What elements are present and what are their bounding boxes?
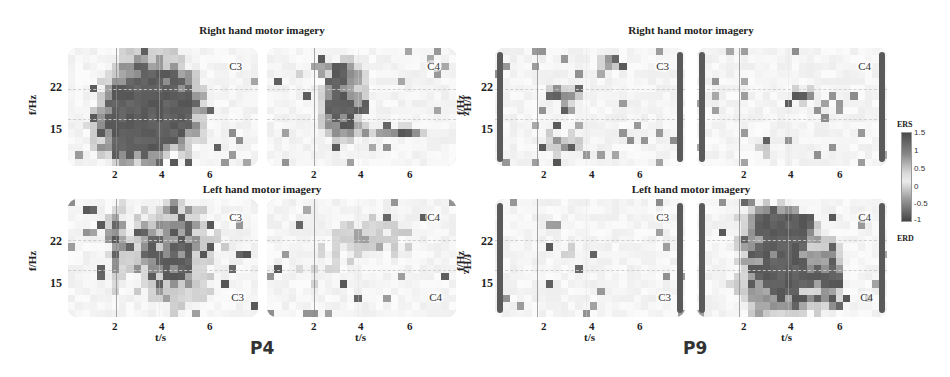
heatmap-p9-left-c3: C3C3 xyxy=(495,199,685,317)
heatmap-p4-right-c3: C3 xyxy=(68,48,258,166)
heatmap-p4-left-c4: C4C4 xyxy=(267,199,456,317)
gridline-vertical xyxy=(159,199,160,317)
p9-top-xtick-4b: 4 xyxy=(788,168,794,180)
event-onset-line xyxy=(537,199,538,317)
subject-label-p9: P9 xyxy=(683,338,707,358)
panel-edge-artifact xyxy=(879,52,885,162)
p9-bottom-xtick-6b: 6 xyxy=(837,320,843,332)
heatmap-p4-right-c4: C4 xyxy=(267,48,456,166)
gridline-horizontal xyxy=(697,270,887,271)
heatmap-p9-right-c4: C4 xyxy=(697,48,887,166)
heatmap-p9-right-c3: C3 xyxy=(495,48,685,166)
p4-bottom-xtick-6: 6 xyxy=(207,320,213,332)
p9-top-ylabel: f/Hz xyxy=(454,95,466,115)
p9-top-xtick-4: 4 xyxy=(589,168,595,180)
event-onset-line xyxy=(314,48,315,166)
panel-edge-artifact xyxy=(879,203,885,313)
p9-top-title: Right hand motor imagery xyxy=(495,24,887,36)
colorbar-erd-label: ERD xyxy=(897,234,914,243)
colorbar-tick-0: 0 xyxy=(914,182,918,191)
subject-label-p4: P4 xyxy=(250,338,274,358)
p9-top-xtick-2b: 2 xyxy=(741,168,747,180)
colorbar-tick-0.5: 0.5 xyxy=(914,164,925,173)
channel-label-bottom: C3 xyxy=(656,291,673,303)
p9-bottom-title: Left hand motor imagery xyxy=(495,183,887,195)
colorbar-ers-label: ERS xyxy=(897,120,913,129)
p4-bottom-xtick-2b: 2 xyxy=(311,320,317,332)
gridline-vertical xyxy=(159,48,160,166)
p4-top-ytick-15: 15 xyxy=(50,122,62,137)
panel-edge-artifact xyxy=(497,52,503,162)
gridline-horizontal xyxy=(495,240,685,241)
p4-top-xtick-4b: 4 xyxy=(358,168,364,180)
p4-bottom-xtick-2: 2 xyxy=(112,320,118,332)
channel-label-bottom: C4 xyxy=(427,291,444,303)
gridline-horizontal xyxy=(495,270,685,271)
p9-top-xtick-2: 2 xyxy=(541,168,547,180)
p4-top-ytick-22: 22 xyxy=(50,80,62,95)
heatmap-p9-left-c4: C4C4 xyxy=(697,199,887,317)
p9-bottom-ylabel: f/Hz xyxy=(454,251,466,271)
event-onset-line xyxy=(739,199,740,317)
p9-xlabel-right: t/s xyxy=(781,331,792,343)
gridline-vertical xyxy=(358,199,359,317)
p9-bottom-xtick-2: 2 xyxy=(541,320,547,332)
colorbar-tick-neg0.5: -0.5 xyxy=(914,199,928,208)
p4-xlabel-right: t/s xyxy=(355,331,366,343)
gridline-horizontal xyxy=(267,89,456,90)
p9-bottom-xtick-6: 6 xyxy=(637,320,643,332)
gridline-vertical xyxy=(586,199,587,317)
gridline-vertical xyxy=(788,199,789,317)
gridline-horizontal xyxy=(267,270,456,271)
panel-edge-artifact xyxy=(699,52,705,162)
p4-top-xtick-2b: 2 xyxy=(311,168,317,180)
gridline-horizontal xyxy=(68,119,258,120)
p9-bottom-ytick-15: 15 xyxy=(481,276,493,291)
p9-bottom-xtick-2b: 2 xyxy=(741,320,747,332)
p9-top-ytick-15: 15 xyxy=(481,122,493,137)
gridline-horizontal xyxy=(697,119,887,120)
event-onset-line xyxy=(116,48,117,166)
event-onset-line xyxy=(739,48,740,166)
colorbar-tick-1: 1 xyxy=(914,146,918,155)
channel-label: C4 xyxy=(856,211,873,223)
p4-top-title: Right hand motor imagery xyxy=(68,24,456,36)
p4-top-xtick-6: 6 xyxy=(207,168,213,180)
channel-label-bottom: C4 xyxy=(858,291,875,303)
p9-top-xtick-6: 6 xyxy=(637,168,643,180)
p4-top-ylabel: f/Hz xyxy=(26,95,38,115)
p4-top-xtick-6b: 6 xyxy=(407,168,413,180)
p4-bottom-title: Left hand motor imagery xyxy=(68,183,456,195)
p4-bottom-ylabel: f/Hz xyxy=(26,251,38,271)
p9-top-ytick-22: 22 xyxy=(481,80,493,95)
p4-bottom-ytick-22: 22 xyxy=(50,234,62,249)
p9-xlabel-left: t/s xyxy=(584,331,595,343)
channel-label-bottom: C3 xyxy=(229,291,246,303)
p9-top-xtick-6b: 6 xyxy=(837,168,843,180)
panel-edge-artifact xyxy=(699,203,705,313)
gridline-horizontal xyxy=(267,119,456,120)
colorbar-tick-neg1: -1 xyxy=(914,215,921,224)
panel-edge-artifact xyxy=(497,203,503,313)
colorbar-tick-1.5: 1.5 xyxy=(914,128,925,137)
colorbar xyxy=(901,132,912,222)
gridline-horizontal xyxy=(68,270,258,271)
panel-edge-artifact xyxy=(677,52,683,162)
gridline-vertical xyxy=(358,48,359,166)
gridline-horizontal xyxy=(495,119,685,120)
channel-label: C3 xyxy=(654,60,671,72)
gridline-horizontal xyxy=(68,89,258,90)
channel-label: C3 xyxy=(654,211,671,223)
heatmap-p4-left-c3: C3C3 xyxy=(68,199,258,317)
gridline-horizontal xyxy=(697,240,887,241)
channel-label: C3 xyxy=(227,60,244,72)
p4-bottom-ytick-15: 15 xyxy=(50,276,62,291)
channel-label: C4 xyxy=(425,60,442,72)
p4-top-xtick-4: 4 xyxy=(159,168,165,180)
event-onset-line xyxy=(537,48,538,166)
p4-top-xtick-2: 2 xyxy=(112,168,118,180)
channel-label: C3 xyxy=(227,211,244,223)
gridline-vertical xyxy=(586,48,587,166)
gridline-horizontal xyxy=(68,240,258,241)
gridline-horizontal xyxy=(697,89,887,90)
